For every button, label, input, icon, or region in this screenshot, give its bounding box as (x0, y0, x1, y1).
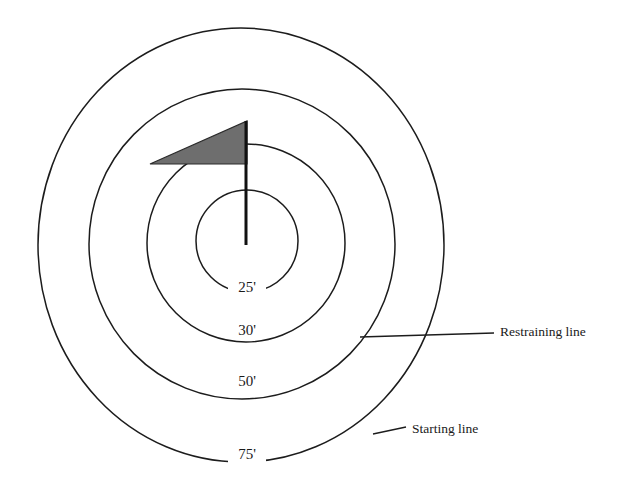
ring-label-75: 75' (238, 446, 256, 462)
callout-label-starting-line: Starting line (412, 421, 478, 436)
ring-circle-75 (38, 28, 444, 462)
diagram-page: 25' 30' 50' 75' Restraining line Startin… (0, 0, 620, 490)
callout-starting-line: Starting line (373, 421, 478, 436)
concentric-target-diagram: 25' 30' 50' 75' Restraining line Startin… (0, 0, 620, 490)
ring-label-30: 30' (238, 322, 256, 338)
ring-label-50: 50' (238, 373, 256, 389)
leader-line-starting (373, 427, 406, 434)
callout-restraining-line: Restraining line (360, 324, 586, 339)
flag-banner-icon (150, 121, 247, 164)
callout-label-restraining-line: Restraining line (500, 324, 586, 339)
ring-label-25: 25' (238, 279, 256, 295)
